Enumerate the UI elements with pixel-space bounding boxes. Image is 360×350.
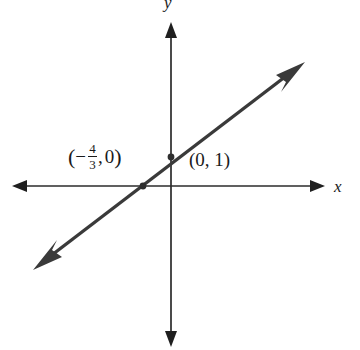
fraction-denominator: 3 bbox=[88, 158, 97, 171]
y-intercept-label: (0, 1) bbox=[189, 150, 230, 169]
fraction-four-thirds: 4 3 bbox=[88, 142, 97, 172]
line-upper-right-arrowhead bbox=[276, 62, 305, 92]
grid-vertical-lines bbox=[33, 40, 314, 330]
point-y-intercept bbox=[168, 154, 175, 161]
label-comma: , bbox=[98, 147, 103, 166]
fraction-numerator: 4 bbox=[88, 142, 97, 155]
label-zero: 0 bbox=[105, 147, 115, 166]
axes bbox=[12, 22, 325, 347]
coordinate-plane-svg bbox=[0, 0, 360, 350]
y-axis-top-arrowhead bbox=[165, 22, 177, 38]
minus-sign: − bbox=[75, 147, 86, 166]
x-axis-right-arrowhead bbox=[310, 180, 325, 192]
point-x-intercept bbox=[140, 183, 147, 190]
x-axis-left-arrowhead bbox=[12, 180, 27, 192]
y-axis-label: y bbox=[164, 0, 172, 11]
y-axis-bottom-arrowhead bbox=[165, 331, 177, 347]
marked-points bbox=[140, 154, 175, 190]
x-intercept-label: ( − 4 3 , 0 ) bbox=[68, 142, 122, 172]
x-axis-label: x bbox=[334, 178, 342, 195]
open-paren: ( bbox=[68, 146, 75, 168]
close-paren: ) bbox=[114, 146, 121, 168]
